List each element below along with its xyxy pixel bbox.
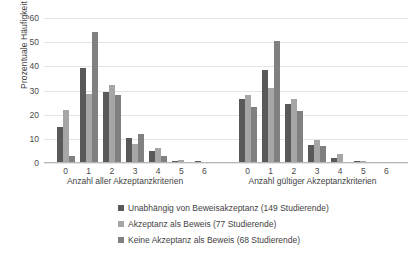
bar (115, 95, 121, 163)
legend-item-label: Unabhängig von Beweisakzeptanz (149 Stud… (128, 203, 329, 213)
bar-category: 2 (100, 18, 123, 163)
bar-category: 1 (77, 18, 100, 163)
x-axis-tick-label: 6 (375, 166, 398, 176)
bar (297, 111, 303, 163)
legend-item: Akzeptanz als Beweis (77 Studierende) (0, 216, 415, 232)
bar-category: 0 (236, 18, 259, 163)
x-axis-tick-label: 3 (305, 166, 328, 176)
y-axis-tick-label: 10 (30, 134, 39, 144)
x-axis-tick-label: 0 (54, 166, 77, 176)
x-axis-tick-label: 1 (77, 166, 100, 176)
x-axis-tick-label: 0 (236, 166, 259, 176)
bar (320, 146, 326, 163)
legend-item: Unabhängig von Beweisakzeptanz (149 Stud… (0, 200, 415, 216)
bar-category: 4 (147, 18, 170, 163)
x-axis-tick-label: 4 (329, 166, 352, 176)
y-axis-title: Prozentuale Häufigkeit (19, 0, 29, 115)
legend-item: Keine Akzeptanz als Beweis (68 Studieren… (0, 232, 415, 248)
bar-group: 0123456 (226, 18, 408, 163)
legend-item-label: Akzeptanz als Beweis (77 Studierende) (128, 219, 276, 229)
plot-area: 0102030405060 01234560123456 (44, 18, 408, 163)
bar (274, 41, 280, 163)
y-axis-tick-label: 60 (30, 13, 39, 23)
group-caption-right: Anzahl gültiger Akzeptanzkriterien (215, 176, 410, 186)
gridline (44, 163, 408, 164)
bar-category: 2 (282, 18, 305, 163)
bar-group: 0123456 (44, 18, 226, 163)
legend-item-label: Keine Akzeptanz als Beweis (68 Studieren… (128, 235, 300, 245)
group-caption-left: Anzahl aller Akzeptanzkriterien (30, 176, 220, 186)
bar-category: 0 (54, 18, 77, 163)
x-axis-tick-label: 4 (147, 166, 170, 176)
x-axis-tick-label: 5 (352, 166, 375, 176)
x-axis-tick-label: 3 (123, 166, 146, 176)
bar-category: 3 (305, 18, 328, 163)
x-axis-line (44, 162, 408, 163)
x-axis-tick-label: 2 (282, 166, 305, 176)
x-axis-tick-label: 5 (170, 166, 193, 176)
bar (138, 134, 144, 163)
x-axis-tick-label: 6 (193, 166, 216, 176)
bar-category: 3 (123, 18, 146, 163)
bar-category: 1 (259, 18, 282, 163)
bar-category: 5 (170, 18, 193, 163)
y-axis-tick-label: 40 (30, 61, 39, 71)
legend-swatch-icon (118, 221, 124, 227)
y-axis-tick-label: 30 (30, 86, 39, 96)
bar-category: 6 (193, 18, 216, 163)
bar-category: 5 (352, 18, 375, 163)
bar-category: 6 (375, 18, 398, 163)
y-axis-tick-label: 20 (30, 110, 39, 120)
y-axis-tick-label: 50 (30, 37, 39, 47)
x-axis-tick-label: 2 (100, 166, 123, 176)
bar (92, 32, 98, 163)
bar (251, 107, 257, 163)
y-axis-tick-label: 0 (34, 158, 39, 168)
bar-category: 4 (329, 18, 352, 163)
legend-swatch-icon (118, 237, 124, 243)
x-axis-tick-label: 1 (259, 166, 282, 176)
legend-swatch-icon (118, 205, 124, 211)
chart-legend: Unabhängig von Beweisakzeptanz (149 Stud… (0, 200, 415, 248)
bar-chart: Prozentuale Häufigkeit 0102030405060 012… (0, 0, 415, 262)
